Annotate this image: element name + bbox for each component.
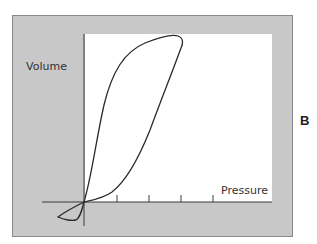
panel-letter: B <box>300 113 309 128</box>
x-axis-ticks <box>117 195 213 202</box>
y-axis-label: Volume <box>26 60 67 73</box>
x-axis-label: Pressure <box>221 184 268 197</box>
negative-pressure-loop <box>58 202 84 220</box>
inflation-curve <box>84 35 183 202</box>
pressure-volume-diagram <box>0 0 317 244</box>
